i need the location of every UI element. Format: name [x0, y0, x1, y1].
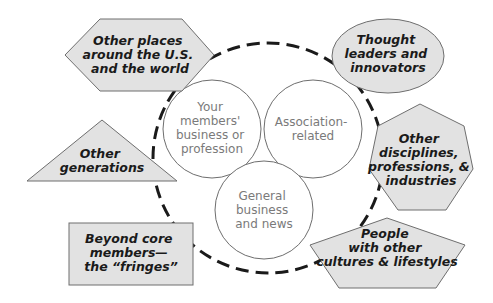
outer-label-line: Other places: [93, 33, 183, 48]
outer-label-line: Thought: [356, 32, 416, 47]
inner-label-line: General: [238, 189, 285, 203]
outer-label-line: Other: [399, 131, 440, 146]
outer-label-line: with other: [348, 240, 422, 255]
sources-diagram: Your members' business or profession Ass…: [0, 0, 493, 303]
outer-label-line: leaders and: [344, 46, 428, 61]
inner-label-line: and news: [235, 217, 292, 231]
outer-label-line: generations: [60, 160, 145, 175]
outer-label-line: cultures & lifestyles: [316, 254, 457, 269]
hexagon-other-places: Other places around the U.S. and the wor…: [65, 19, 214, 91]
rectangle-beyond-core-members: Beyond core members— the “fringes”: [69, 223, 193, 285]
inner-label-line: related: [292, 129, 334, 143]
outer-label-line: disciplines,: [379, 145, 458, 160]
outer-label-line: members—: [90, 245, 168, 260]
heptagon-other-disciplines: Other disciplines, professions, & indust…: [367, 104, 474, 210]
inner-label-line: profession: [181, 142, 243, 156]
outer-label-line: professions, &: [367, 159, 470, 174]
outer-label-line: around the U.S.: [83, 47, 194, 62]
inner-circle-general-business: General business and news: [215, 161, 313, 259]
outer-label-line: and the world: [91, 61, 190, 76]
outer-label-line: People: [361, 226, 409, 241]
svg-text:Thought leaders and: Thought leaders and innovators: [344, 32, 431, 75]
outer-label-line: Beyond core: [85, 231, 173, 246]
inner-circle-members-business: Your members' business or profession: [163, 80, 261, 178]
svg-text:Other places around the: Other places around the U.S. and the wor…: [83, 33, 198, 76]
svg-text:Beyond core members—: Beyond core members— the “fringes”: [84, 231, 177, 274]
outer-label-line: industries: [386, 173, 457, 188]
inner-label-line: business or: [176, 128, 244, 142]
ellipse-thought-leaders: Thought leaders and innovators: [332, 19, 444, 93]
inner-label-line: members': [180, 114, 240, 128]
inner-label-line: business: [236, 203, 288, 217]
outer-label-line: innovators: [350, 60, 425, 75]
inner-label-line: Your: [196, 100, 223, 114]
outer-label-line: Other: [80, 146, 121, 161]
svg-text:General business a: General business and news: [235, 189, 292, 231]
inner-label-line: Association-: [275, 115, 348, 129]
pentagon-other-cultures: People with other cultures & lifestyles: [310, 218, 465, 288]
outer-label-line: the “fringes”: [84, 259, 177, 274]
